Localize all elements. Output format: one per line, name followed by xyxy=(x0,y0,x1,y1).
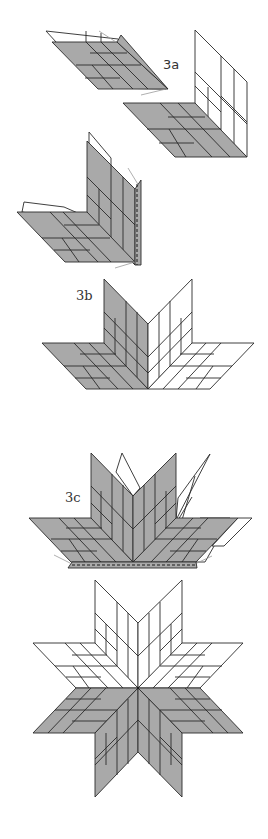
assembly-diagram: .g { fill: #a9a9a9; stroke: #2a2a2a; str… xyxy=(0,0,268,839)
step-3b xyxy=(42,279,254,389)
step-3a-left-piece xyxy=(46,31,168,95)
step-3c xyxy=(29,453,252,568)
step-label-3c: 3c xyxy=(65,490,81,505)
step-3a-right-piece xyxy=(123,30,247,157)
step-label-3b: 3b xyxy=(76,288,93,303)
step-label-3a: 3a xyxy=(163,57,179,72)
step-3a-sewn-pair xyxy=(17,132,141,268)
finished-star xyxy=(33,580,243,797)
